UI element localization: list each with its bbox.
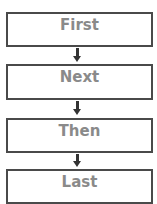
arrow-down-icon (76, 154, 79, 162)
step-label: Last (62, 175, 98, 190)
step-label: Then (59, 124, 101, 139)
step-box-last: Last (6, 169, 153, 204)
arrow-down-icon (76, 48, 79, 57)
step-box-first: First (6, 12, 153, 47)
step-label: Next (60, 70, 100, 85)
step-label: First (60, 18, 99, 33)
step-box-then: Then (6, 118, 153, 153)
arrow-down-icon (76, 101, 79, 110)
step-box-next: Next (6, 64, 153, 100)
